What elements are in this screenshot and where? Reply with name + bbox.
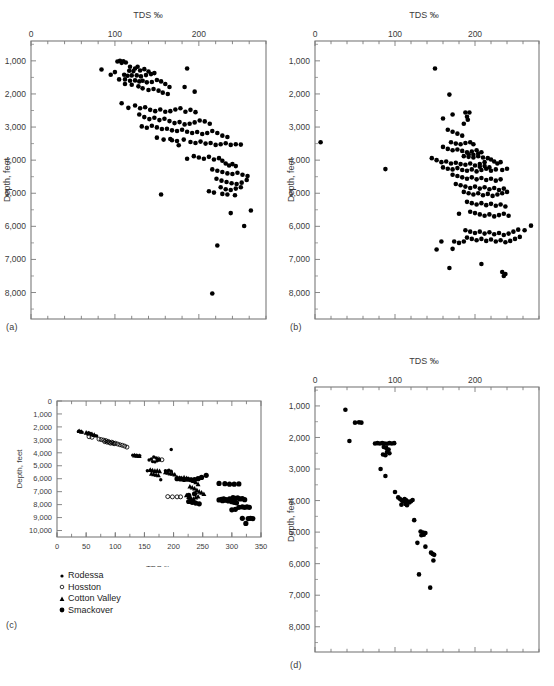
data-point: [473, 163, 478, 168]
data-point: [240, 172, 245, 177]
data-point: [489, 176, 494, 181]
data-point: [490, 194, 495, 199]
data-point: [467, 110, 472, 115]
data-point: [212, 157, 217, 162]
data-point: [447, 92, 452, 97]
data-point: [167, 119, 172, 124]
data-point: [447, 266, 452, 271]
data-point: [128, 78, 133, 83]
data-point: [197, 118, 202, 123]
data-point: [482, 213, 487, 218]
data-point: [245, 174, 250, 179]
data-point: [432, 553, 437, 558]
legend-item: Rodessa: [56, 570, 121, 582]
data-point: [529, 223, 534, 228]
data-series-group: [318, 66, 533, 278]
data-point: [142, 67, 147, 72]
data-point: [180, 127, 185, 132]
data-point: [460, 133, 465, 138]
data-point: [482, 164, 487, 169]
data-point: [458, 162, 463, 167]
data-point: [383, 474, 388, 479]
data-point: [450, 172, 455, 177]
data-point: [487, 230, 492, 235]
data-point: [494, 167, 499, 172]
data-point: [170, 138, 175, 143]
data-point: [463, 184, 468, 189]
data-point: [197, 501, 202, 506]
data-point: [479, 176, 484, 181]
data-point: [474, 202, 479, 207]
data-point: [134, 73, 139, 78]
svg-text:0: 0: [55, 542, 59, 551]
data-point: [450, 129, 455, 134]
data-point: [494, 204, 499, 209]
data-point: [126, 106, 131, 111]
data-point: [182, 122, 187, 127]
data-point: [99, 67, 104, 72]
legend: Rodessa Hosston Cotton Valley Smackover: [56, 570, 121, 616]
data-point: [161, 137, 166, 142]
svg-text:Depth, feet: Depth, feet: [15, 449, 24, 489]
data-point: [145, 80, 150, 85]
data-point: [148, 108, 153, 113]
data-point: [489, 237, 494, 242]
data-point: [222, 481, 227, 486]
data-point: [225, 171, 230, 176]
data-series-group: [99, 59, 253, 296]
data-point: [203, 141, 208, 146]
svg-text:8,000: 8,000: [5, 288, 27, 298]
data-point: [220, 192, 225, 197]
svg-text:6,000: 6,000: [289, 221, 311, 231]
data-point: [155, 78, 160, 83]
data-point: [431, 558, 436, 563]
data-point: [140, 86, 145, 91]
data-point: [479, 262, 484, 267]
data-point: [463, 141, 468, 146]
data-point: [457, 241, 462, 246]
data-point: [119, 101, 124, 106]
data-point: [383, 453, 388, 458]
data-point: [183, 110, 188, 115]
data-point: [131, 69, 136, 74]
svg-text:7,000: 7,000: [33, 487, 52, 496]
data-point: [450, 112, 455, 117]
data-point: [207, 121, 212, 126]
data-point: [224, 180, 229, 185]
data-point: [500, 168, 505, 173]
data-point: [455, 131, 460, 136]
panel-b: 01002001,0002,0003,0004,0005,0006,0007,0…: [284, 4, 554, 344]
svg-text:3,000: 3,000: [289, 464, 311, 474]
svg-text:4,000: 4,000: [33, 449, 52, 458]
data-point: [468, 161, 473, 166]
data-point: [185, 66, 190, 71]
data-point: [439, 239, 444, 244]
data-point: [139, 74, 144, 79]
data-point: [466, 117, 471, 122]
data-point: [492, 214, 497, 219]
data-point: [463, 228, 468, 233]
legend-marker-smackover-icon: [56, 605, 68, 617]
data-point: [176, 143, 181, 148]
data-point: [508, 239, 513, 244]
data-point: [124, 60, 129, 65]
data-point: [460, 149, 465, 154]
data-point: [182, 85, 187, 90]
data-point: [192, 89, 197, 94]
data-point: [482, 231, 487, 236]
legend-marker-hosston-icon: [56, 582, 68, 594]
svg-text:200: 200: [192, 29, 206, 39]
data-point: [166, 495, 170, 499]
data-point: [446, 166, 451, 171]
data-point: [470, 167, 475, 172]
data-point: [119, 61, 124, 66]
data-point: [503, 240, 508, 245]
data-point: [150, 123, 155, 128]
data-point: [167, 85, 172, 90]
data-point: [433, 66, 438, 71]
data-point: [478, 186, 483, 191]
data-point: [487, 165, 492, 170]
svg-text:6,000: 6,000: [289, 559, 311, 569]
data-point: [239, 180, 244, 185]
data-point: [214, 176, 219, 181]
